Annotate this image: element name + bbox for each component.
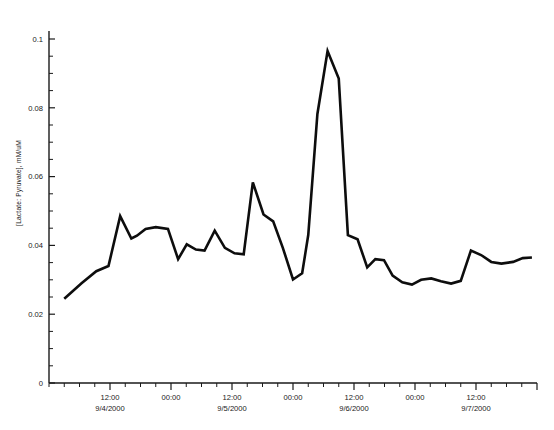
y-axis-title: [Lactate: Pyruvate], mM/uM	[15, 140, 23, 226]
x-tick-date-label: 9/6/2000	[339, 404, 369, 413]
x-axis: 12:009/4/200000:0012:009/5/200000:0012:0…	[49, 383, 537, 413]
x-tick-date-label: 9/5/2000	[217, 404, 247, 413]
x-tick-date-label: 9/7/2000	[461, 404, 491, 413]
y-axis-title-text: [Lactate: Pyruvate], mM/uM	[15, 140, 23, 226]
x-tick-date-label: 9/4/2000	[95, 404, 125, 413]
line-chart: 00.020.040.060.080.1 12:009/4/200000:001…	[0, 0, 554, 430]
x-tick-time-label: 12:00	[222, 393, 241, 402]
y-tick-label: 0.04	[28, 241, 43, 250]
y-tick-label: 0	[39, 379, 43, 388]
y-tick-label: 0.08	[28, 104, 43, 113]
x-tick-time-label: 12:00	[466, 393, 485, 402]
y-tick-label: 0.02	[28, 310, 43, 319]
x-tick-time-label: 00:00	[405, 393, 424, 402]
x-tick-time-label: 00:00	[283, 393, 302, 402]
data-line	[64, 51, 532, 299]
x-tick-time-label: 12:00	[344, 393, 363, 402]
y-axis: 00.020.040.060.080.1	[28, 31, 55, 388]
x-tick-time-label: 00:00	[161, 393, 180, 402]
data-series-group	[64, 51, 532, 299]
chart-container: 00.020.040.060.080.1 12:009/4/200000:001…	[0, 0, 554, 430]
y-tick-label: 0.1	[32, 35, 43, 44]
x-tick-time-label: 12:00	[100, 393, 119, 402]
y-tick-label: 0.06	[28, 172, 43, 181]
